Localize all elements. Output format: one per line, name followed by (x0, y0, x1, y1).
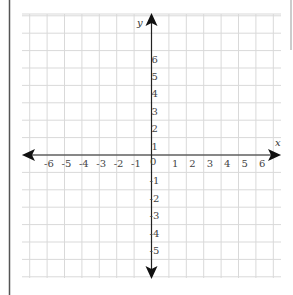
x-tick-label: 1 (172, 158, 178, 169)
y-tick-label: 3 (152, 106, 158, 117)
x-tick-label: -4 (79, 158, 89, 169)
y-tick-label: -5 (150, 245, 160, 256)
x-tick-label: -2 (114, 158, 124, 169)
x-axis-label: x (275, 137, 281, 148)
y-axis-label: y (136, 17, 143, 28)
y-tick-label: 2 (152, 123, 158, 134)
x-tick-label: 4 (224, 158, 230, 169)
coordinate-plane: x y -6-5-4-3-2-1123456 123456-1-2-3-4-5 … (0, 0, 293, 295)
y-tick-label: -3 (150, 210, 160, 221)
y-tick-label: -2 (150, 193, 160, 204)
x-tick-label: 5 (242, 158, 248, 169)
x-tick-label: 2 (189, 158, 195, 169)
x-tick-label: -5 (62, 158, 72, 169)
y-tick-label: 1 (152, 141, 158, 152)
y-tick-label: -1 (150, 175, 160, 186)
y-tick-label: 6 (152, 54, 158, 65)
origin-label: 0 (150, 156, 156, 167)
x-tick-label: -1 (131, 158, 141, 169)
x-tick-label: 3 (207, 158, 213, 169)
y-tick-label: 5 (152, 71, 158, 82)
x-tick-label: -6 (44, 158, 54, 169)
y-tick-label: 4 (152, 88, 158, 99)
y-tick-label: -4 (150, 228, 160, 239)
x-tick-label: 6 (259, 158, 265, 169)
x-tick-label: -3 (96, 158, 106, 169)
